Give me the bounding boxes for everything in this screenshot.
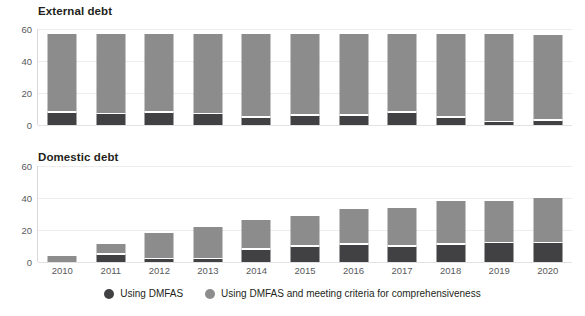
stacked-bar[interactable] — [48, 256, 77, 262]
y-axis-tick-label-0: 0 — [27, 120, 32, 131]
plot-area-external-debt: 0204060 — [38, 29, 572, 125]
bar-segment-meeting-criteria[interactable] — [533, 35, 562, 120]
bar-group-2014[interactable] — [232, 29, 281, 125]
stacked-bar[interactable] — [145, 233, 174, 262]
bar-segment-using-dmfas[interactable] — [96, 254, 125, 262]
bar-group-2017[interactable] — [378, 29, 427, 125]
stacked-bar[interactable] — [533, 198, 562, 262]
bar-segment-using-dmfas[interactable] — [242, 117, 271, 125]
stacked-bar[interactable] — [436, 201, 465, 262]
bar-group-2011[interactable] — [87, 166, 136, 262]
bar-group-2016[interactable] — [329, 29, 378, 125]
bar-segment-using-dmfas[interactable] — [533, 243, 562, 262]
bar-segment-using-dmfas[interactable] — [436, 117, 465, 125]
stacked-bar[interactable] — [485, 201, 514, 262]
bar-group-2019[interactable] — [475, 166, 524, 262]
y-axis-tick-label-60: 60 — [21, 24, 32, 35]
bar-segment-using-dmfas[interactable] — [290, 115, 319, 125]
stacked-bar[interactable] — [96, 244, 125, 262]
x-axis-tick-label-2018: 2018 — [440, 265, 461, 276]
bar-group-2019[interactable] — [475, 29, 524, 125]
bar-segment-using-dmfas[interactable] — [339, 244, 368, 262]
bar-segment-using-dmfas[interactable] — [339, 115, 368, 125]
bar-group-2020[interactable] — [523, 29, 572, 125]
bar-segment-using-dmfas[interactable] — [290, 246, 319, 262]
bar-group-2011[interactable] — [87, 29, 136, 125]
bar-segment-meeting-criteria[interactable] — [290, 34, 319, 116]
bar-segment-meeting-criteria[interactable] — [145, 233, 174, 259]
bar-segment-divider — [339, 114, 368, 116]
gridline-0: 0 — [38, 125, 572, 126]
bar-group-2018[interactable] — [426, 166, 475, 262]
bar-segment-meeting-criteria[interactable] — [48, 256, 77, 262]
bar-group-2018[interactable] — [426, 29, 475, 125]
bar-segment-meeting-criteria[interactable] — [193, 227, 222, 259]
circle-dark-icon — [104, 289, 114, 299]
bar-group-2020[interactable] — [523, 166, 572, 262]
bar-segment-using-dmfas[interactable] — [485, 243, 514, 262]
bar-group-2012[interactable] — [135, 29, 184, 125]
bar-segment-divider — [96, 253, 125, 255]
bar-segment-meeting-criteria[interactable] — [339, 209, 368, 244]
bar-segment-meeting-criteria[interactable] — [485, 201, 514, 243]
bar-segment-divider — [533, 242, 562, 244]
chart-title-domestic-debt: Domestic debt — [38, 151, 119, 163]
bar-segment-meeting-criteria[interactable] — [48, 34, 77, 112]
bar-segment-meeting-criteria[interactable] — [145, 34, 174, 112]
stacked-bar[interactable] — [48, 34, 77, 125]
stacked-bar[interactable] — [436, 34, 465, 125]
bar-group-2014[interactable] — [232, 166, 281, 262]
stacked-bar[interactable] — [388, 208, 417, 262]
stacked-bar[interactable] — [388, 34, 417, 125]
stacked-bar[interactable] — [96, 34, 125, 125]
bar-segment-using-dmfas[interactable] — [388, 112, 417, 125]
bar-segment-meeting-criteria[interactable] — [242, 34, 271, 117]
bar-segment-meeting-criteria[interactable] — [96, 34, 125, 114]
bar-segment-using-dmfas[interactable] — [436, 244, 465, 262]
bar-segment-using-dmfas[interactable] — [96, 114, 125, 125]
bar-group-2012[interactable] — [135, 166, 184, 262]
bar-segment-using-dmfas[interactable] — [533, 120, 562, 125]
stacked-bar[interactable] — [533, 35, 562, 125]
stacked-bar[interactable] — [193, 34, 222, 125]
stacked-bar[interactable] — [193, 227, 222, 262]
bar-segment-meeting-criteria[interactable] — [485, 34, 514, 122]
bar-group-2015[interactable] — [281, 166, 330, 262]
x-axis-tick-label-2013: 2013 — [197, 265, 218, 276]
bars-domestic-debt — [38, 166, 572, 262]
bar-segment-using-dmfas[interactable] — [145, 112, 174, 125]
legend-item-1[interactable]: Using DMFAS and meeting criteria for com… — [205, 288, 481, 299]
bar-segment-meeting-criteria[interactable] — [193, 34, 222, 114]
bar-segment-using-dmfas[interactable] — [193, 114, 222, 125]
bar-segment-meeting-criteria[interactable] — [242, 220, 271, 249]
bar-group-2013[interactable] — [184, 29, 233, 125]
bar-segment-using-dmfas[interactable] — [388, 246, 417, 262]
bar-group-2010[interactable] — [38, 29, 87, 125]
stacked-bar[interactable] — [242, 34, 271, 125]
legend-item-0[interactable]: Using DMFAS — [104, 288, 183, 299]
bar-segment-meeting-criteria[interactable] — [290, 216, 319, 246]
stacked-bar[interactable] — [290, 34, 319, 125]
bar-group-2013[interactable] — [184, 166, 233, 262]
bar-segment-meeting-criteria[interactable] — [533, 198, 562, 243]
stacked-bar-chart-figure: External debt 0204060 Domestic debt 0204… — [0, 0, 585, 316]
stacked-bar[interactable] — [242, 220, 271, 262]
stacked-bar[interactable] — [290, 216, 319, 262]
bar-group-2016[interactable] — [329, 166, 378, 262]
bar-segment-meeting-criteria[interactable] — [339, 34, 368, 116]
bar-segment-meeting-criteria[interactable] — [436, 34, 465, 117]
bar-segment-meeting-criteria[interactable] — [436, 201, 465, 244]
y-axis-tick-label-40: 40 — [21, 193, 32, 204]
stacked-bar[interactable] — [339, 209, 368, 262]
bar-segment-meeting-criteria[interactable] — [388, 34, 417, 112]
stacked-bar[interactable] — [339, 34, 368, 125]
stacked-bar[interactable] — [485, 34, 514, 125]
bar-segment-using-dmfas[interactable] — [48, 112, 77, 125]
stacked-bar[interactable] — [145, 34, 174, 125]
bar-segment-divider — [533, 119, 562, 121]
bar-segment-meeting-criteria[interactable] — [388, 208, 417, 246]
bar-group-2015[interactable] — [281, 29, 330, 125]
bar-group-2017[interactable] — [378, 166, 427, 262]
bar-group-2010[interactable] — [38, 166, 87, 262]
bar-segment-using-dmfas[interactable] — [242, 249, 271, 262]
